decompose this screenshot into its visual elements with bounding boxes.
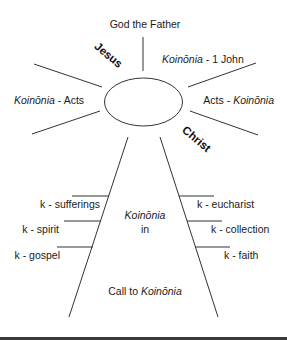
right-branch-label-1: k - eucharist — [197, 198, 254, 210]
label-center-koinonia: Koinōnia — [125, 209, 166, 221]
label-call-to-plain: Call to — [108, 285, 141, 297]
left-branch-label-2: k - spirit — [22, 223, 59, 235]
right-branch-label-2: k - collection — [211, 223, 270, 235]
ray-lower-right — [190, 111, 258, 135]
left-branch-label-3: k - gospel — [14, 249, 60, 261]
label-acts-koinonia: Acts - Koinōnia — [203, 94, 274, 106]
label-koinonia-acts: Koinōnia - Acts — [14, 94, 84, 106]
label-god-the-father: God the Father — [110, 18, 181, 30]
right-branch-label-3: k - faith — [224, 249, 259, 261]
label-koinonia-acts-plain: - Acts — [55, 94, 84, 106]
label-acts-koinonia-plain: Acts - — [203, 94, 233, 106]
ray-lower-left — [32, 111, 100, 134]
central-ellipse — [105, 78, 183, 126]
koinonia-diagram: God the Father Jesus Christ Koinōnia - 1… — [0, 0, 287, 340]
left-branch-label-1: k - sufferings — [40, 198, 100, 210]
label-koinonia-1-john: Koinōnia - 1 John — [162, 53, 244, 65]
label-christ: Christ — [180, 124, 213, 155]
label-acts-koinonia-italic: Koinōnia — [233, 94, 274, 106]
label-call-to-italic: Koinōnia — [141, 285, 182, 297]
label-center-in: in — [141, 223, 149, 235]
ray-upper-left — [34, 64, 102, 87]
label-call-to-koinonia: Call to Koinōnia — [108, 285, 182, 297]
ray-upper-right — [188, 63, 256, 87]
label-koinonia-acts-italic: Koinōnia — [14, 94, 55, 106]
label-koinonia-1-john-plain: - 1 John — [203, 53, 244, 65]
label-jesus: Jesus — [92, 40, 125, 70]
label-koinonia-1-john-italic: Koinōnia — [162, 53, 203, 65]
